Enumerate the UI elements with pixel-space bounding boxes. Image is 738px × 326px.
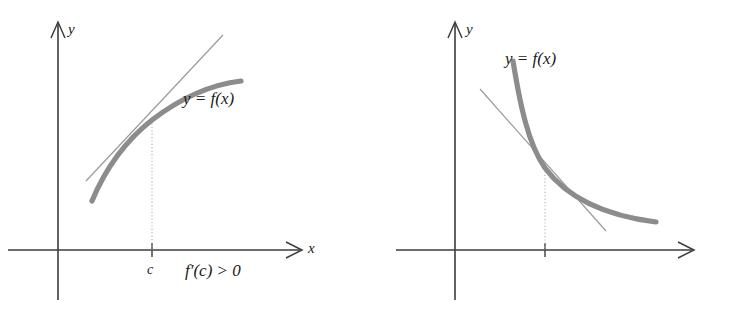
y-axis-label: y bbox=[466, 22, 473, 37]
x-axis-label: x bbox=[308, 241, 315, 256]
curve-label: y = f(x) bbox=[183, 90, 234, 107]
condition-label: f′(c) > 0 bbox=[185, 262, 241, 279]
y-axis bbox=[448, 22, 462, 300]
derivative-sign-figure: y x y = f(x) c f′(c) > 0 bbox=[0, 0, 738, 326]
panel-negative-derivative: y x y = f(x) c f′(c) < 0 bbox=[369, 0, 738, 326]
panel-positive-derivative: y x y = f(x) c f′(c) > 0 bbox=[0, 0, 369, 326]
x-axis bbox=[8, 242, 302, 258]
tangent-line bbox=[86, 35, 223, 181]
y-axis bbox=[51, 22, 65, 300]
curve-label: y = f(x) bbox=[505, 50, 556, 67]
function-curve bbox=[513, 61, 656, 222]
tangent-line bbox=[480, 89, 606, 231]
y-axis-label: y bbox=[68, 22, 75, 37]
tick-label-c: c bbox=[147, 263, 153, 277]
